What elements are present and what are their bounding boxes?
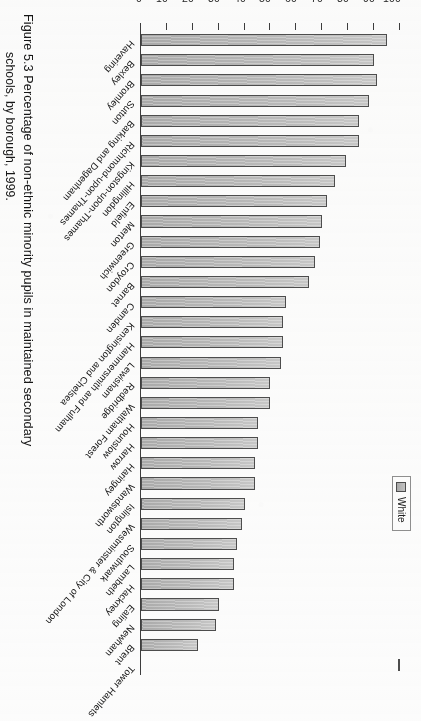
bar bbox=[141, 276, 309, 288]
chart-plot-area: 0102030405060708090100 White HaveringBex… bbox=[0, 0, 421, 721]
bar bbox=[141, 518, 242, 530]
bar bbox=[141, 54, 374, 66]
category-label: Tower Hamlets bbox=[86, 663, 137, 719]
axis-tick bbox=[270, 23, 271, 30]
bar bbox=[141, 316, 283, 328]
axis-tick bbox=[347, 23, 348, 30]
bar bbox=[141, 457, 255, 469]
bar bbox=[141, 578, 234, 590]
bar bbox=[141, 498, 245, 510]
bar bbox=[141, 195, 327, 207]
bar bbox=[141, 639, 198, 651]
axis-tick bbox=[373, 23, 374, 30]
axis-tick bbox=[140, 23, 141, 30]
bar bbox=[398, 659, 400, 671]
bar bbox=[141, 34, 387, 46]
axis-tick-label: 100 bbox=[361, 0, 401, 4]
bar bbox=[141, 215, 322, 227]
bar bbox=[141, 256, 315, 268]
legend-swatch-white bbox=[397, 482, 407, 492]
legend-label-white: White bbox=[396, 497, 407, 523]
bar bbox=[141, 296, 286, 308]
axis-tick bbox=[166, 23, 167, 30]
legend: White bbox=[392, 476, 411, 531]
figure-chart: 0102030405060708090100 White HaveringBex… bbox=[0, 0, 421, 721]
axis-tick bbox=[295, 23, 296, 30]
bar bbox=[141, 437, 258, 449]
bar bbox=[141, 619, 216, 631]
bar bbox=[141, 357, 281, 369]
axis-tick bbox=[192, 23, 193, 30]
axis-tick bbox=[399, 23, 400, 30]
bars-container bbox=[141, 30, 400, 675]
bar bbox=[141, 417, 258, 429]
bar bbox=[141, 74, 377, 86]
bar bbox=[141, 155, 346, 167]
axis-tick bbox=[218, 23, 219, 30]
bar bbox=[141, 598, 219, 610]
value-axis: 0102030405060708090100 bbox=[141, 0, 400, 30]
bar bbox=[141, 477, 255, 489]
bar bbox=[141, 95, 369, 107]
bar bbox=[141, 558, 234, 570]
bar bbox=[141, 538, 237, 550]
axis-tick bbox=[321, 23, 322, 30]
bar bbox=[141, 135, 359, 147]
bar bbox=[141, 175, 335, 187]
bar bbox=[141, 236, 320, 248]
bar bbox=[141, 377, 271, 389]
bar bbox=[141, 115, 359, 127]
bar bbox=[141, 336, 283, 348]
bar bbox=[141, 397, 271, 409]
axis-tick bbox=[244, 23, 245, 30]
